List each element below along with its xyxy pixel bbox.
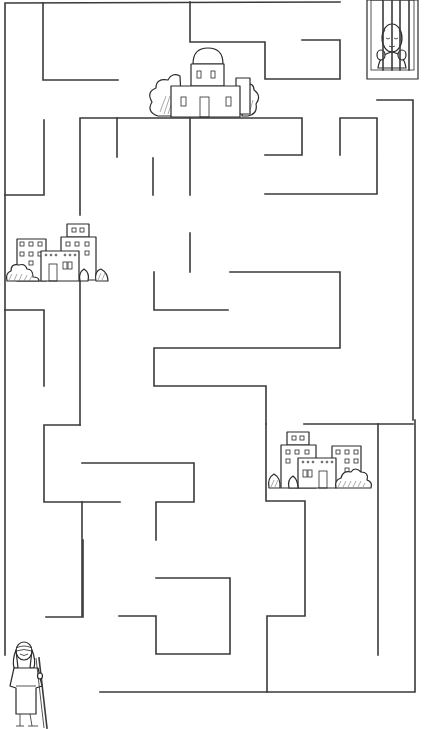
city-left-icon <box>7 224 109 281</box>
domed-house-icon <box>150 48 259 117</box>
prisoner-jail-icon[interactable] <box>367 0 418 79</box>
maze-board[interactable] <box>0 0 438 729</box>
traveler-start-icon[interactable] <box>10 642 47 728</box>
city-right-icon <box>269 432 372 488</box>
